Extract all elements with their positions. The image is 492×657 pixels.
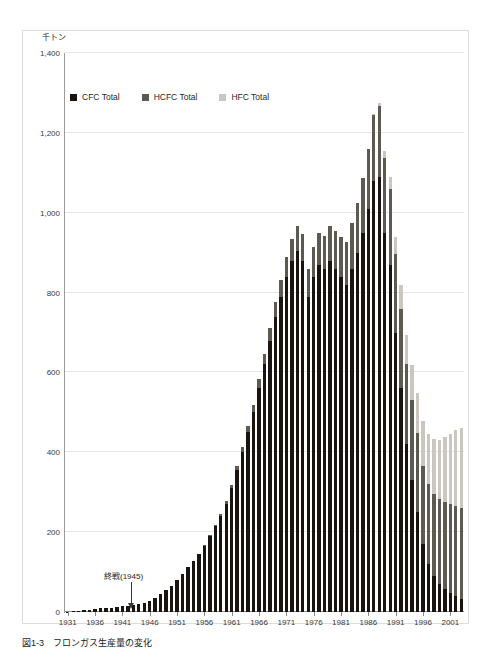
bar-column (235, 466, 238, 612)
bar-segment (241, 452, 244, 612)
bar-segment (350, 269, 353, 612)
bar-segment (443, 502, 446, 589)
bar-column (257, 379, 260, 612)
bar-column (159, 594, 162, 612)
bar-column (214, 525, 217, 612)
bar-segment (383, 158, 386, 232)
bar-column (356, 203, 359, 612)
y-tick-label-800: 800 (24, 288, 60, 297)
bar-segment (449, 593, 452, 612)
bar-column (290, 239, 293, 612)
bar-segment (153, 598, 156, 612)
x-tick-1946 (150, 612, 151, 616)
bar-column (268, 328, 271, 612)
bar-column (175, 580, 178, 612)
x-tick-1976 (314, 612, 315, 616)
bar-segment (383, 151, 386, 158)
bar-segment (438, 499, 441, 584)
bar-column (410, 365, 413, 612)
square-swatch-icon (142, 94, 149, 101)
bar-segment (323, 269, 326, 612)
bar-segment (192, 561, 195, 612)
bar-segment (285, 257, 288, 276)
bar-segment (421, 544, 424, 612)
bar-column (389, 177, 392, 612)
bar-segment (148, 601, 151, 612)
legend-item-label: CFC Total (82, 92, 120, 102)
bar-segment (345, 242, 348, 284)
bar-segment (328, 261, 331, 612)
bar-column (454, 430, 457, 612)
bar-segment (399, 388, 402, 612)
bar-segment (432, 494, 435, 576)
bar-segment (345, 285, 348, 612)
x-tick-1941 (122, 612, 123, 616)
bar-segment (143, 603, 146, 612)
bar-segment (416, 512, 419, 612)
figure-page: 千トン 02004006008001,0001,2001,400 1931193… (0, 0, 492, 657)
bar-segment (394, 237, 397, 255)
bar-segment (460, 508, 463, 599)
bar-column (405, 335, 408, 612)
bar-segment (394, 254, 397, 332)
bar-column (307, 269, 310, 612)
bar-segment (219, 516, 222, 612)
bar-segment (290, 239, 293, 261)
bar-segment (372, 115, 375, 181)
bar-segment (410, 400, 413, 480)
y-tick-label-1000: 1,000 (24, 208, 60, 217)
bar-segment (301, 261, 304, 612)
bar-column (328, 226, 331, 612)
bar-column (339, 237, 342, 612)
x-tick-label-1931: 1931 (59, 618, 77, 627)
bar-column (432, 439, 435, 612)
bar-column (153, 598, 156, 612)
bar-segment (334, 231, 337, 269)
bar-segment (328, 226, 331, 261)
bar-segment (361, 233, 364, 612)
bar-segment (432, 576, 435, 612)
bar-segment (197, 554, 200, 612)
bar-segment (389, 189, 392, 265)
x-tick-1956 (204, 612, 205, 616)
bar-column (361, 178, 364, 612)
y-tick-label-600: 600 (24, 368, 60, 377)
bar-segment (350, 223, 353, 269)
bar-column (378, 103, 381, 612)
bar-segment (410, 365, 413, 400)
bar-column (421, 421, 424, 612)
bar-segment (246, 432, 249, 612)
bar-segment (443, 589, 446, 612)
bar-segment (460, 428, 463, 508)
bar-segment (279, 280, 282, 297)
bar-segment (416, 393, 419, 433)
bar-segment (164, 590, 167, 612)
bar-segment (427, 564, 430, 612)
bar-segment (307, 297, 310, 612)
bar-column (219, 514, 222, 612)
bar-segment (427, 484, 430, 564)
bar-segment (257, 388, 260, 612)
bar-segment (399, 309, 402, 389)
bar-segment (296, 251, 299, 612)
x-tick-label-1986: 1986 (359, 618, 377, 627)
bar-segment (356, 253, 359, 612)
bar-segment (137, 604, 140, 612)
x-tick-label-1936: 1936 (86, 618, 104, 627)
bar-column (334, 231, 337, 612)
bar-column (460, 428, 463, 612)
bar-segment (394, 333, 397, 613)
bar-segment (405, 364, 408, 445)
x-tick-label-1956: 1956 (195, 618, 213, 627)
x-tick-label-1976: 1976 (305, 618, 323, 627)
bar-column (438, 440, 441, 612)
x-tick-1981 (341, 612, 342, 616)
bar-column (279, 280, 282, 612)
bar-segment (454, 596, 457, 612)
bar-column (230, 485, 233, 612)
bar-column (317, 233, 320, 612)
x-tick-label-1966: 1966 (250, 618, 268, 627)
bar-segment (334, 269, 337, 612)
legend-item-label: HFC Total (231, 92, 269, 102)
x-tick-label-1941: 1941 (113, 618, 131, 627)
